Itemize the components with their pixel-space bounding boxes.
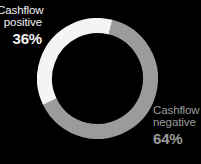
donut-chart bbox=[37, 18, 158, 139]
annotation-positive-line1: Cashflow bbox=[0, 5, 42, 17]
annotation-negative-line1: Cashflow bbox=[153, 105, 201, 117]
annotation-negative-value: 64% bbox=[153, 131, 201, 146]
annotation-cashflow-positive: Cashflow positive 36% bbox=[0, 5, 42, 47]
annotation-positive-value: 36% bbox=[0, 31, 42, 46]
annotation-negative-line2: negative bbox=[153, 117, 201, 129]
cashflow-donut-figure: Cashflow positive 36% Cashflow negative … bbox=[0, 0, 201, 164]
annotation-positive-line2: positive bbox=[0, 17, 42, 29]
donut-chart-svg bbox=[37, 18, 158, 139]
annotation-cashflow-negative: Cashflow negative 64% bbox=[153, 105, 201, 147]
